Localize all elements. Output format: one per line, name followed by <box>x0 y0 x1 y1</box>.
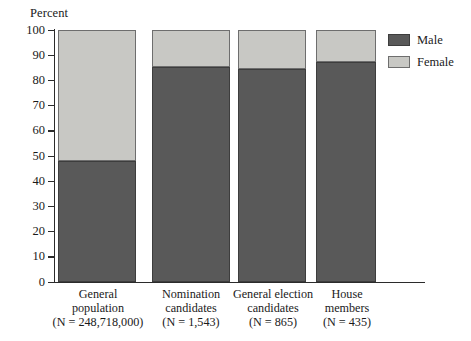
bar-segment-female <box>152 30 230 67</box>
y-tick-label-wrap: 40 <box>0 175 45 187</box>
y-tick-20 <box>48 231 55 232</box>
stacked-bar-chart: Percent 1009080706050403020100 Generalpo… <box>0 0 471 341</box>
bar-segment-female <box>58 30 136 161</box>
y-axis-title: Percent <box>30 6 68 21</box>
y-tick-label: 10 <box>3 250 45 262</box>
category-label-line: (N = 1,543) <box>148 315 234 329</box>
bar-segment-female <box>316 30 376 62</box>
y-tick-label-wrap: 90 <box>0 49 45 61</box>
y-tick-label-wrap: 0 <box>0 276 45 288</box>
y-tick-label: 30 <box>3 200 45 212</box>
category-label-line: (N = 248,718,000) <box>52 315 144 329</box>
category-label: Generalpopulation(N = 248,718,000) <box>52 287 144 330</box>
bar-segment-male <box>152 67 230 282</box>
y-tick-label: 70 <box>3 99 45 111</box>
category-label: Housemembers(N = 435) <box>310 287 384 330</box>
y-tick-label: 80 <box>3 74 45 86</box>
legend-label-female: Female <box>417 55 454 70</box>
y-tick-label: 60 <box>3 124 45 136</box>
category-label-line: General election <box>228 287 318 301</box>
bar-segment-female <box>238 30 306 69</box>
bar-segment-male <box>316 62 376 283</box>
y-tick-label: 40 <box>3 175 45 187</box>
legend-item-female: Female <box>388 52 454 72</box>
y-tick-label-wrap: 70 <box>0 99 45 111</box>
y-tick-60 <box>48 130 55 131</box>
y-tick-10 <box>48 256 55 257</box>
y-tick-30 <box>48 206 55 207</box>
y-tick-label: 90 <box>3 49 45 61</box>
category-label-line: General <box>52 287 144 301</box>
y-tick-label-wrap: 50 <box>0 150 45 162</box>
y-tick-90 <box>48 55 55 56</box>
category-label-line: candidates <box>228 301 318 315</box>
y-tick-0 <box>48 282 55 283</box>
category-label-line: Nomination <box>148 287 234 301</box>
bar-group <box>238 30 306 282</box>
y-tick-70 <box>48 105 55 106</box>
y-tick-40 <box>48 181 55 182</box>
category-label-line: House <box>310 287 384 301</box>
y-tick-label-wrap: 20 <box>0 225 45 237</box>
category-label-line: population <box>52 301 144 315</box>
bar-segment-male <box>58 161 136 282</box>
bar-group <box>316 30 376 282</box>
bar-segment-male <box>238 69 306 282</box>
y-tick-label-wrap: 80 <box>0 74 45 86</box>
y-tick-label: 20 <box>3 225 45 237</box>
category-label-line: members <box>310 301 384 315</box>
category-label: General electioncandidates(N = 865) <box>228 287 318 330</box>
y-tick-label: 50 <box>3 150 45 162</box>
y-tick-label-wrap: 30 <box>0 200 45 212</box>
y-tick-80 <box>48 80 55 81</box>
y-tick-label-wrap: 60 <box>0 124 45 136</box>
female-swatch-icon <box>388 56 410 68</box>
x-axis-line <box>54 282 425 283</box>
bar-group <box>58 30 136 282</box>
chart-legend: Male Female <box>388 30 454 74</box>
y-tick-100 <box>48 30 55 31</box>
category-label-line: (N = 865) <box>228 315 318 329</box>
y-tick-label: 100 <box>3 24 45 36</box>
male-swatch-icon <box>388 34 410 46</box>
legend-item-male: Male <box>388 30 454 50</box>
category-label: Nominationcandidates(N = 1,543) <box>148 287 234 330</box>
y-tick-label-wrap: 10 <box>0 250 45 262</box>
y-tick-50 <box>48 156 55 157</box>
category-label-line: candidates <box>148 301 234 315</box>
legend-label-male: Male <box>417 33 443 48</box>
y-tick-label-wrap: 100 <box>0 24 45 36</box>
bar-group <box>152 30 230 282</box>
y-tick-label: 0 <box>3 276 45 288</box>
category-label-line: (N = 435) <box>310 315 384 329</box>
